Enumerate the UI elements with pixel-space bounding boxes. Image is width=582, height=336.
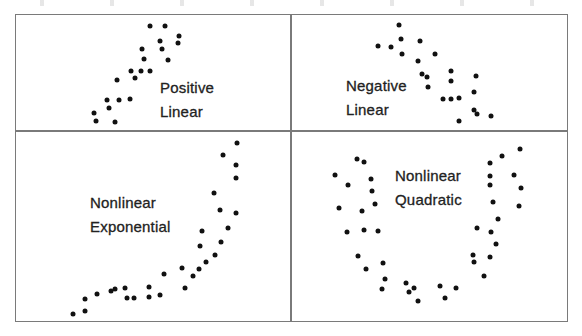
label-line: Exponential [90, 215, 171, 239]
data-point-nonlinear-quadratic [518, 147, 523, 152]
data-point-positive-linear [158, 39, 163, 44]
data-point-negative-linear [416, 59, 421, 64]
panel-label-nonlinear-exponential: Nonlinear Exponential [90, 191, 171, 239]
data-point-nonlinear-exponential [158, 293, 163, 298]
cropped-caption-fragment [0, 0, 582, 6]
data-point-positive-linear [128, 97, 133, 102]
data-point-negative-linear [397, 23, 402, 28]
data-point-nonlinear-quadratic [496, 217, 501, 222]
data-point-nonlinear-quadratic [454, 286, 459, 291]
panel-label-negative-linear: Negative Linear [346, 74, 407, 122]
data-point-negative-linear [400, 52, 405, 57]
data-point-nonlinear-exponential [197, 267, 202, 272]
panel-label-nonlinear-quadratic: Nonlinear Quadratic [395, 164, 462, 212]
data-point-negative-linear [457, 96, 462, 101]
data-point-nonlinear-exponential [113, 287, 118, 292]
data-point-nonlinear-quadratic [383, 277, 388, 282]
data-point-negative-linear [418, 39, 423, 44]
data-point-nonlinear-quadratic [489, 230, 494, 235]
data-point-positive-linear [107, 106, 112, 111]
data-point-nonlinear-exponential [95, 292, 100, 297]
data-point-nonlinear-exponential [234, 211, 239, 216]
data-point-nonlinear-quadratic [362, 228, 367, 233]
data-point-nonlinear-exponential [71, 312, 76, 317]
label-line: Nonlinear [395, 164, 462, 188]
data-point-negative-linear [457, 119, 462, 124]
label-line: Positive [160, 76, 214, 100]
data-point-nonlinear-quadratic [472, 260, 477, 265]
data-point-nonlinear-quadratic [412, 286, 417, 291]
data-point-nonlinear-exponential [235, 141, 240, 146]
data-point-nonlinear-quadratic [355, 157, 360, 162]
data-point-positive-linear [177, 34, 182, 39]
data-point-nonlinear-quadratic [512, 173, 517, 178]
data-point-nonlinear-exponential [234, 163, 239, 168]
data-point-positive-linear [92, 111, 97, 116]
data-point-nonlinear-quadratic [360, 209, 365, 214]
data-point-positive-linear [140, 47, 145, 52]
data-point-nonlinear-quadratic [519, 186, 524, 191]
data-point-nonlinear-exponential [83, 309, 88, 314]
data-point-positive-linear [176, 41, 181, 46]
data-point-nonlinear-exponential [226, 226, 231, 231]
data-point-positive-linear [129, 69, 134, 74]
data-point-nonlinear-quadratic [407, 290, 412, 295]
data-point-nonlinear-quadratic [471, 253, 476, 258]
data-point-nonlinear-exponential [191, 274, 196, 279]
data-point-nonlinear-exponential [221, 153, 226, 158]
data-point-nonlinear-exponential [125, 296, 130, 301]
data-point-nonlinear-quadratic [381, 261, 386, 266]
data-point-negative-linear [449, 79, 454, 84]
data-point-nonlinear-quadratic [404, 281, 409, 286]
data-point-positive-linear [163, 24, 168, 29]
data-point-negative-linear [426, 85, 431, 90]
label-line: Linear [346, 98, 407, 122]
panel-label-positive-linear: Positive Linear [160, 76, 214, 124]
data-point-negative-linear [449, 69, 454, 74]
data-point-negative-linear [433, 52, 438, 57]
data-point-positive-linear [113, 120, 118, 125]
data-point-nonlinear-quadratic [364, 267, 369, 272]
horizontal-divider [15, 130, 568, 132]
data-point-nonlinear-quadratic [488, 183, 493, 188]
data-point-nonlinear-exponential [147, 285, 152, 290]
data-point-nonlinear-quadratic [500, 154, 505, 159]
data-point-nonlinear-quadratic [370, 189, 375, 194]
data-point-nonlinear-exponential [212, 191, 217, 196]
data-point-nonlinear-quadratic [491, 200, 496, 205]
data-point-negative-linear [441, 97, 446, 102]
data-point-nonlinear-exponential [162, 272, 167, 277]
data-point-nonlinear-quadratic [369, 177, 374, 182]
data-point-positive-linear [133, 76, 138, 81]
data-point-nonlinear-quadratic [380, 287, 385, 292]
data-point-negative-linear [399, 37, 404, 42]
data-point-nonlinear-quadratic [376, 229, 381, 234]
data-point-positive-linear [115, 78, 120, 83]
data-point-negative-linear [389, 45, 394, 50]
data-point-positive-linear [142, 57, 147, 62]
data-point-negative-linear [449, 97, 454, 102]
data-point-nonlinear-exponential [147, 295, 152, 300]
label-line: Negative [346, 74, 407, 98]
label-line: Quadratic [395, 188, 462, 212]
data-point-nonlinear-quadratic [345, 230, 350, 235]
data-point-positive-linear [148, 24, 153, 29]
data-point-positive-linear [117, 98, 122, 103]
data-point-nonlinear-exponential [123, 286, 128, 291]
data-point-nonlinear-exponential [132, 296, 137, 301]
data-point-nonlinear-quadratic [416, 299, 421, 304]
data-point-nonlinear-quadratic [488, 161, 493, 166]
data-point-nonlinear-quadratic [488, 174, 493, 179]
data-point-negative-linear [489, 114, 494, 119]
data-point-positive-linear [160, 47, 165, 52]
data-point-nonlinear-exponential [180, 266, 185, 271]
data-point-nonlinear-quadratic [356, 254, 361, 259]
data-point-negative-linear [376, 44, 381, 49]
data-point-nonlinear-quadratic [333, 173, 338, 178]
data-point-positive-linear [94, 119, 99, 124]
data-point-nonlinear-quadratic [482, 274, 487, 279]
data-point-nonlinear-quadratic [337, 206, 342, 211]
data-point-nonlinear-quadratic [438, 284, 443, 289]
data-point-negative-linear [472, 90, 477, 95]
data-point-nonlinear-exponential [183, 286, 188, 291]
